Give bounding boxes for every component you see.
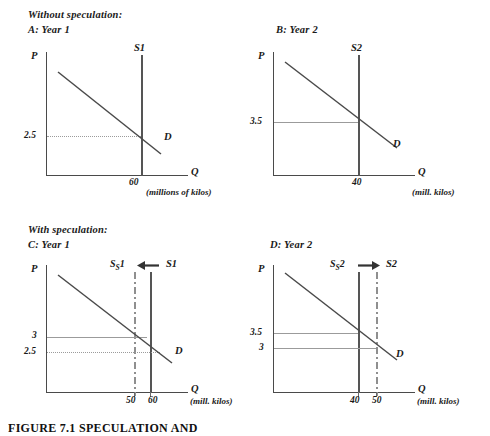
panel-b-demand-curve — [245, 0, 475, 200]
figure-caption: FIGURE 7.1 SPECULATION AND — [8, 421, 478, 436]
panel-d-demand-curve — [245, 215, 475, 415]
panel-c-demand-label: D — [175, 345, 183, 356]
panel-a-demand-curve — [0, 0, 200, 200]
panel-b-demand-label: D — [393, 138, 401, 149]
panel-a-demand-label: D — [164, 131, 172, 142]
panel-d-demand-label: D — [396, 348, 404, 359]
panel-c-demand-curve — [0, 215, 210, 415]
